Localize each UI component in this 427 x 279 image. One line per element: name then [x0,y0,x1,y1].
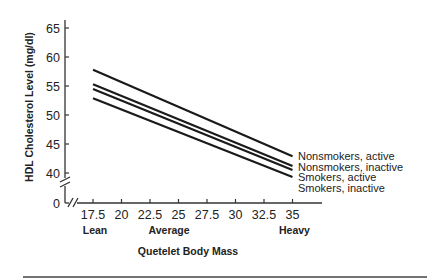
series-line [93,98,293,177]
x-tick-label: 20 [115,208,129,222]
y-tick-label: 45 [46,138,60,152]
y-tick-label: 0 [53,197,60,211]
x-category-labels: LeanAverageHeavy [83,224,310,236]
x-category-label: Heavy [279,224,310,236]
y-tick-label: 40 [46,167,60,181]
x-tick-label: 17.5 [81,208,105,222]
x-tick-label: 30 [229,208,243,222]
hdl-chart: HDL Cholesterol Level (mg/dl) 6560555045… [0,0,427,279]
series-line [93,70,293,156]
x-axis-title: Quetelet Body Mass [138,245,239,257]
x-tick-label: 35 [286,208,300,222]
series-lines [93,70,293,177]
y-tick-label: 55 [46,80,60,94]
y-tick-label: 50 [46,109,60,123]
y-tick-label: 60 [46,51,60,65]
x-tick-label: 22.5 [138,208,162,222]
series-line [93,89,293,170]
legend: Nonsmokers, activeNonsmokers, inactiveSm… [298,150,403,194]
y-axis-break-icon [60,177,70,187]
x-tick-label: 25 [172,208,186,222]
x-tick-label: 32.5 [252,208,276,222]
x-category-label: Lean [83,224,108,236]
x-axis-break-icon [68,198,78,207]
x-tick-label: 27.5 [195,208,219,222]
y-axis-title: HDL Cholesterol Level (mg/dl) [23,32,35,182]
x-category-label: Average [149,224,190,236]
legend-label: Smokers, inactive [298,182,385,194]
series-line [93,84,293,166]
y-tick-label: 65 [46,22,60,36]
